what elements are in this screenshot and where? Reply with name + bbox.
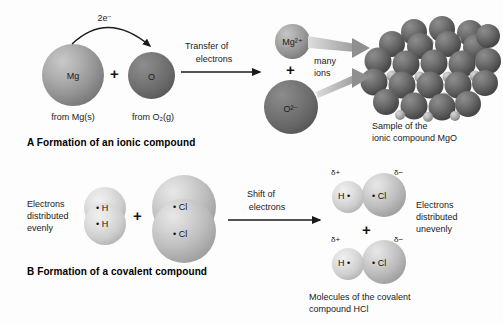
shift-bold-word: Shift: [247, 189, 265, 199]
shift-label-line1: Shift of: [247, 189, 275, 200]
o-ion-symbol: O²⁻: [264, 105, 318, 114]
hcl1-delta-plus: δ+: [331, 169, 340, 177]
crystal-caption-line1: Sample of the: [372, 121, 428, 132]
o-atom-sphere: O: [128, 52, 175, 99]
transfer-label-line1: Transfer of: [185, 41, 228, 52]
hcl2-h-symbol-text: H: [338, 258, 345, 268]
ionic-covalent-bonding-figure: 2e⁻ Mg + O from Mg(s) from O₂(g) Transfe…: [0, 0, 503, 324]
crystal-caption-line2: ionic compound MgO: [372, 133, 457, 144]
hcl1-cl-symbol: • Cl: [372, 192, 386, 201]
many-ions-line2: ions: [314, 68, 331, 79]
electron-transfer-arrow: [72, 27, 150, 46]
shift-label-line2: electrons: [239, 202, 295, 213]
hcl-molecule-1: H • • Cl: [332, 173, 406, 223]
mg-ion-sphere: Mg²⁺: [275, 24, 310, 59]
uneven-distribution-line2: distributed: [416, 212, 458, 223]
hcl1-cl-symbol-text: Cl: [378, 191, 387, 201]
even-distribution-line3: evenly: [27, 223, 53, 234]
hcl-caption-line1: Molecules of the covalent: [309, 292, 411, 303]
o-atom-symbol: O: [128, 73, 175, 82]
even-distribution-line1: Electrons: [27, 199, 65, 210]
hcl2-cl-symbol-text: Cl: [378, 258, 387, 268]
hcl1-delta-minus: δ−: [394, 169, 403, 177]
reactant-plus-a: +: [110, 66, 119, 81]
o-source-label: from O₂(g): [118, 112, 188, 123]
crystal-svg: [356, 16, 502, 124]
mg-atom-sphere: Mg: [42, 44, 104, 106]
many-ions-line1: many: [314, 56, 336, 67]
hcl2-h-symbol: H •: [338, 259, 350, 268]
h2-symbol-top-text: H: [102, 203, 109, 213]
cl2-symbol-top-text: Cl: [179, 202, 188, 212]
mg-source-label: from Mg(s): [38, 112, 108, 123]
product-plus-b: +: [362, 222, 371, 237]
h2-symbol-top: • H: [96, 204, 108, 213]
transfer-label-line2: electrons: [183, 54, 245, 65]
cl2-symbol-bottom-text: Cl: [179, 229, 188, 239]
cl2-symbol-bottom: • Cl: [173, 230, 187, 239]
panel-b-caption: B Formation of a covalent compound: [27, 266, 207, 277]
reactant-plus-b: +: [133, 208, 142, 223]
mg-atom-symbol: Mg: [42, 72, 104, 81]
mg-ion-symbol: Mg²⁺: [275, 38, 310, 47]
even-distribution-line2: distributed: [27, 211, 69, 222]
h2-symbol-bottom-text: H: [102, 219, 109, 229]
o-ion-sphere: O²⁻: [264, 80, 318, 134]
h2-molecule: • H • H: [84, 187, 126, 245]
hcl1-h-symbol: H •: [338, 192, 350, 201]
mg-ion-to-crystal-arrow: [308, 36, 356, 52]
shift-rest-word: of: [265, 189, 275, 199]
hcl-caption-line2: compound HCl: [309, 304, 369, 315]
panel-a-caption: A Formation of an ionic compound: [27, 137, 195, 148]
uneven-distribution-line3: unevenly: [416, 224, 452, 235]
hcl-molecule-2: H • • Cl: [332, 240, 406, 290]
mgo-crystal-lattice: [356, 16, 502, 124]
hcl2-cl-symbol: • Cl: [372, 259, 386, 268]
cl2-molecule: • Cl • Cl: [152, 175, 216, 263]
electron-transfer-label: 2e⁻: [85, 13, 125, 24]
product-plus-a: +: [286, 62, 295, 77]
cl2-symbol-top: • Cl: [173, 203, 187, 212]
hcl1-h-symbol-text: H: [338, 191, 345, 201]
uneven-distribution-line1: Electrons: [416, 200, 454, 211]
hcl2-delta-minus: δ−: [394, 236, 403, 244]
transfer-rest-word: of: [218, 41, 228, 51]
hcl2-delta-plus: δ+: [331, 236, 340, 244]
transfer-bold-word: Transfer: [185, 41, 218, 51]
h2-symbol-bottom: • H: [96, 220, 108, 229]
